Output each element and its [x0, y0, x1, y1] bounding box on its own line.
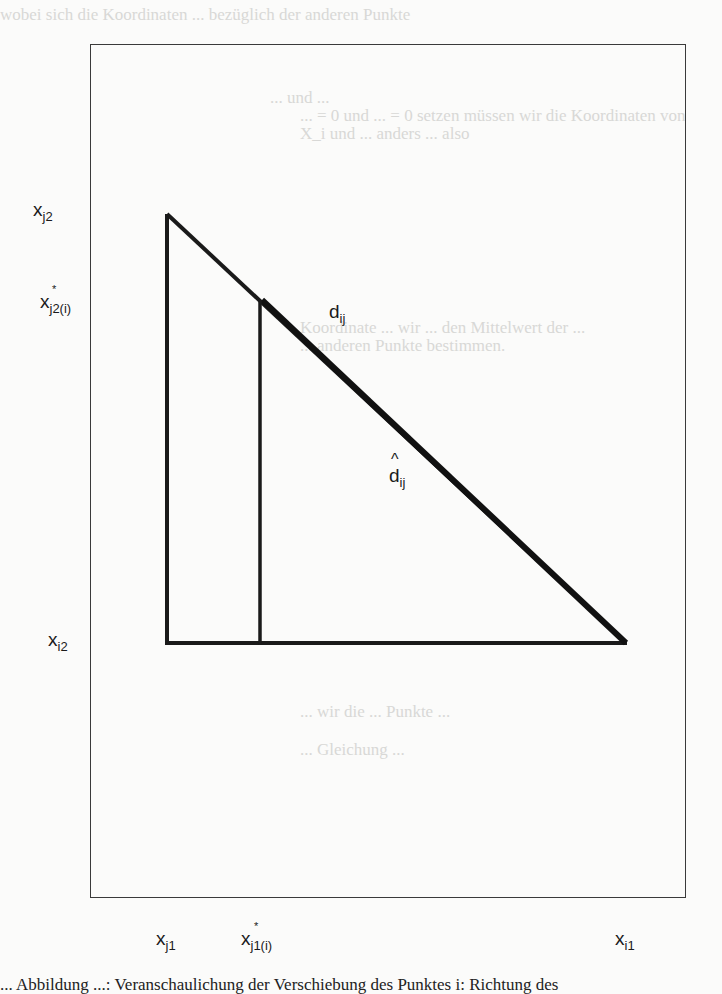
- label-dij: dij: [329, 302, 345, 325]
- figure-caption: ... Abbildung ...: Veranschaulichung der…: [0, 975, 722, 994]
- projected-distance-line: [262, 300, 626, 643]
- label-xi2: xi2: [48, 630, 68, 653]
- label-xj2i-star: xj2(i): [40, 292, 71, 315]
- triangle-diagram: [0, 0, 722, 994]
- label-dij-hat: dij: [389, 466, 405, 489]
- label-xi1: xi1: [615, 929, 635, 952]
- label-xj2: xj2: [33, 200, 53, 223]
- label-xj1: xj1: [156, 929, 176, 952]
- label-xj1i-star: xj1(i): [241, 929, 272, 952]
